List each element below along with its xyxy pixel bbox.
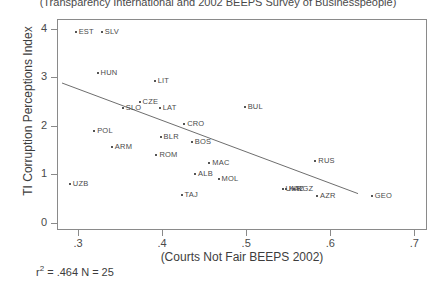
data-point[interactable]: [314, 160, 316, 162]
x-tick-mark: [78, 230, 79, 236]
data-point-label: AZR: [320, 191, 336, 200]
data-point[interactable]: [122, 107, 124, 109]
x-tick-label: .4: [147, 237, 177, 249]
data-point[interactable]: [155, 154, 157, 156]
plot-area: ESTSLVHUNLITCZESLOLATBULCROPOLBLRBOSARMR…: [57, 19, 427, 230]
data-point[interactable]: [160, 136, 162, 138]
data-point-label: MAC: [212, 158, 229, 167]
data-point[interactable]: [101, 31, 103, 33]
data-point-label: CRO: [187, 119, 204, 128]
x-tick-mark: [330, 230, 331, 236]
data-point-label: SLV: [105, 27, 119, 36]
y-axis-label: TI Corruption Perceptions Index: [21, 1, 35, 221]
data-point-label: BUL: [248, 102, 263, 111]
data-point[interactable]: [316, 195, 318, 197]
data-point-label: BOS: [195, 137, 211, 146]
data-point-label: EST: [79, 27, 94, 36]
x-tick-label: .5: [231, 237, 261, 249]
data-point[interactable]: [218, 178, 220, 180]
x-tick-mark: [162, 230, 163, 236]
y-tick-label: 3: [25, 70, 47, 82]
data-point-label: RUS: [318, 156, 334, 165]
data-point[interactable]: [159, 107, 161, 109]
data-point-label: BLR: [164, 132, 179, 141]
data-point-label: SLO: [126, 103, 142, 112]
data-point-label: ARM: [115, 142, 132, 151]
data-point[interactable]: [191, 141, 193, 143]
y-tick-label: 1: [25, 167, 47, 179]
data-point[interactable]: [97, 72, 99, 74]
x-tick-label: .7: [399, 237, 429, 249]
data-point-label: POL: [97, 126, 113, 135]
data-point[interactable]: [282, 188, 284, 190]
data-point-label: ALB: [198, 169, 213, 178]
regression-line: [57, 19, 427, 230]
x-axis-label: (Courts Not Fair BEEPS 2002): [57, 250, 427, 264]
data-point[interactable]: [154, 80, 156, 82]
data-point[interactable]: [183, 123, 185, 125]
data-point-label: ROM: [159, 150, 177, 159]
data-point-label: GEO: [375, 191, 392, 200]
y-tick-label: 0: [25, 216, 47, 228]
data-point-label: LAT: [163, 103, 177, 112]
y-tick-label: 4: [25, 22, 47, 34]
data-point-label: HUN: [101, 68, 118, 77]
x-tick-label: .3: [63, 237, 93, 249]
data-point-label: CZE: [143, 97, 159, 106]
x-tick-label: .6: [315, 237, 345, 249]
chart-title: (Transparency International and 2002 BEE…: [0, 0, 436, 8]
x-tick-mark: [414, 230, 415, 236]
chart-container: (Transparency International and 2002 BEE…: [0, 0, 436, 283]
data-point[interactable]: [293, 188, 295, 190]
data-point[interactable]: [93, 130, 95, 132]
data-point[interactable]: [208, 162, 210, 164]
data-point-label: UZB: [73, 179, 89, 188]
data-point[interactable]: [194, 173, 196, 175]
data-point-label: MOL: [222, 174, 239, 183]
y-tick-label: 2: [25, 119, 47, 131]
data-point[interactable]: [371, 195, 373, 197]
data-point[interactable]: [181, 194, 183, 196]
data-point-label: KGZ: [297, 184, 313, 193]
data-point[interactable]: [69, 183, 71, 185]
data-point[interactable]: [111, 146, 113, 148]
x-tick-mark: [246, 230, 247, 236]
data-point[interactable]: [75, 31, 77, 33]
data-point[interactable]: [285, 188, 287, 190]
data-point-label: LIT: [158, 76, 169, 85]
data-point[interactable]: [244, 106, 246, 108]
data-point-label: TAJ: [185, 190, 198, 199]
r-squared-annotation: r2 = .464 N = 25: [36, 264, 114, 278]
